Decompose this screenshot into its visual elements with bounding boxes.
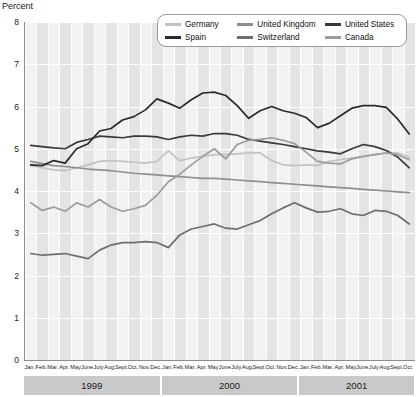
x-axis-tick-label: Feb. xyxy=(311,362,322,373)
legend-color-swatch xyxy=(165,36,181,39)
x-axis-tick-label: Sept. xyxy=(253,362,266,373)
y-axis-tick-label: 4 xyxy=(14,186,19,196)
legend-item-label: Germany xyxy=(185,20,219,29)
x-axis-tick-label: Oct. xyxy=(265,362,275,373)
legend-item-label: Canada xyxy=(345,33,374,42)
legend-color-swatch xyxy=(325,23,341,26)
legend-color-swatch xyxy=(237,36,253,39)
x-axis-tick-label: May xyxy=(346,362,357,373)
x-axis-tick-label: June xyxy=(356,362,368,373)
x-axis-tick-label: Nov. xyxy=(139,362,150,373)
x-axis-tick-label: May xyxy=(70,362,81,373)
x-axis-tick-label: Mar. xyxy=(185,362,196,373)
x-axis-tick-label: Apr. xyxy=(59,362,69,373)
legend-item[interactable]: Spain xyxy=(165,31,237,44)
y-axis-tick-labels: 012345678 xyxy=(0,22,22,360)
x-axis-tick-label: Jan. xyxy=(162,362,173,373)
x-axis-tick-labels: Jan.Feb.Mar.Apr.MayJuneJulyAug.Sept.Oct.… xyxy=(24,362,414,374)
legend-item-label: United Kingdom xyxy=(257,20,315,29)
x-axis-tick-label: Apr. xyxy=(197,362,207,373)
legend-color-swatch xyxy=(237,23,253,26)
x-axis-tick-label: Oct. xyxy=(128,362,138,373)
legend-row: GermanyUnited KingdomUnited States xyxy=(165,18,401,31)
series-line xyxy=(31,203,410,259)
year-band: 2000 xyxy=(162,376,300,395)
year-band-label: 2001 xyxy=(346,380,367,391)
series-line xyxy=(31,134,410,168)
x-axis-tick-label: Mar. xyxy=(323,362,334,373)
x-axis-tick-label: Dec. xyxy=(288,362,300,373)
year-band-label: 2000 xyxy=(219,380,240,391)
x-axis-tick-label: July xyxy=(369,362,379,373)
legend-item[interactable]: United Kingdom xyxy=(237,18,325,31)
y-axis-tick-label: 8 xyxy=(14,17,19,27)
x-axis-tick-label: Apr. xyxy=(334,362,344,373)
x-axis-tick-label: Mar. xyxy=(47,362,58,373)
year-band: 1999 xyxy=(24,376,162,395)
y-axis-tick-label: 5 xyxy=(14,144,19,154)
legend-item[interactable]: Switzerland xyxy=(237,31,325,44)
x-axis-tick-label: Jan. xyxy=(300,362,311,373)
y-axis-title: Percent xyxy=(2,1,33,12)
x-axis-tick-label: June xyxy=(219,362,231,373)
y-axis-tick-label: 7 xyxy=(14,59,19,69)
x-axis-tick-label: Sept. xyxy=(390,362,403,373)
x-axis-tick-label: Feb. xyxy=(173,362,184,373)
y-axis-tick-label: 0 xyxy=(14,355,19,365)
series-lines-svg xyxy=(25,22,415,360)
x-axis-tick-label: Sept. xyxy=(115,362,128,373)
x-axis-tick-label: Jan. xyxy=(24,362,35,373)
x-axis-tick-label: July xyxy=(231,362,241,373)
legend-item-label: Switzerland xyxy=(257,33,299,42)
series-lines-container xyxy=(25,22,415,360)
legend-row: SpainSwitzerlandCanada xyxy=(165,31,401,44)
legend-item-label: Spain xyxy=(185,33,206,42)
legend-item[interactable]: United States xyxy=(325,18,401,31)
legend-item[interactable]: Canada xyxy=(325,31,401,44)
year-band-bar: 199920002001 xyxy=(24,376,414,395)
legend-color-swatch xyxy=(165,23,181,26)
y-axis-tick-label: 1 xyxy=(14,313,19,323)
legend-item-label: United States xyxy=(345,20,394,29)
chart-legend: GermanyUnited KingdomUnited States Spain… xyxy=(157,14,407,47)
x-axis-tick-label: Oct. xyxy=(403,362,413,373)
year-band: 2001 xyxy=(299,376,414,395)
x-axis-tick-label: May xyxy=(208,362,219,373)
x-axis-tick-label: July xyxy=(94,362,104,373)
legend-item[interactable]: Germany xyxy=(165,18,237,31)
chart-root: Percent 012345678 Jan.Feb.Mar.Apr.MayJun… xyxy=(0,0,418,397)
x-axis-tick-label: Dec. xyxy=(150,362,162,373)
y-axis-tick-label: 3 xyxy=(14,228,19,238)
x-axis-tick-label: June xyxy=(81,362,93,373)
year-band-label: 1999 xyxy=(81,380,102,391)
x-axis-tick-label: Feb. xyxy=(36,362,47,373)
series-line xyxy=(31,161,410,192)
x-axis-tick-label: Nov. xyxy=(277,362,288,373)
plot-area xyxy=(24,22,415,361)
y-axis-tick-label: 6 xyxy=(14,102,19,112)
legend-color-swatch xyxy=(325,36,341,39)
y-axis-tick-label: 2 xyxy=(14,271,19,281)
